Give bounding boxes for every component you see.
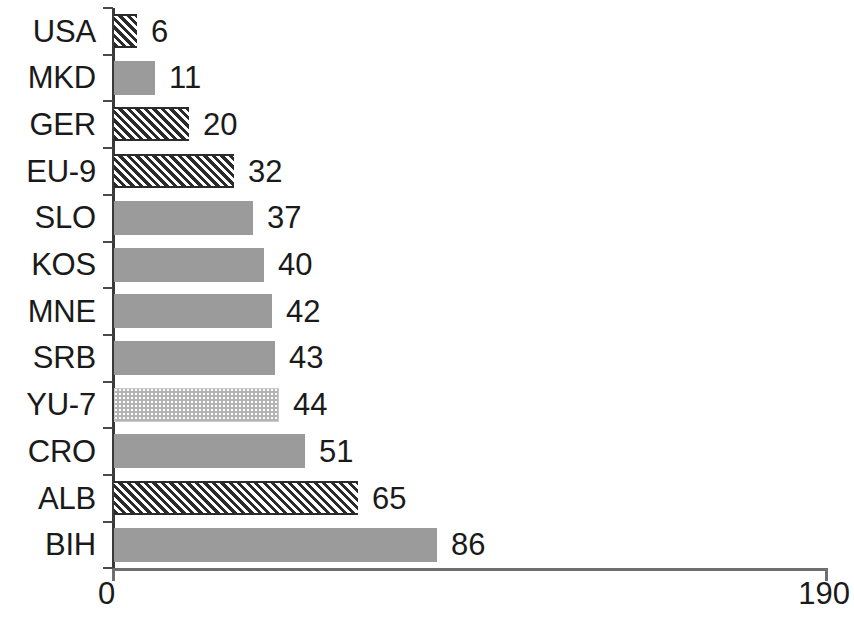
bar-fill <box>114 294 272 328</box>
bar-row: GER20 <box>0 101 854 147</box>
bar-row: KOS40 <box>0 242 854 288</box>
bar-value-label: 11 <box>169 55 201 101</box>
category-label: YU-7 <box>0 382 96 428</box>
category-label: GER <box>0 101 96 147</box>
bar-fill <box>114 434 305 468</box>
bar-fill <box>114 481 358 515</box>
category-label: BIH <box>0 522 96 568</box>
bar-value-label: 20 <box>203 101 237 147</box>
bar-yu-7 <box>114 388 279 422</box>
bar-value-label: 40 <box>278 242 312 288</box>
bar-fill <box>114 154 234 188</box>
category-label: MKD <box>0 55 96 101</box>
bar-fill <box>114 14 137 48</box>
bar-fill <box>114 201 253 235</box>
category-label: SRB <box>0 335 96 381</box>
bar-row: ALB65 <box>0 475 854 521</box>
category-label: EU-9 <box>0 148 96 194</box>
y-axis-tick <box>103 567 113 569</box>
x-axis-label-max: 190 <box>798 578 850 609</box>
bar-eu-9 <box>114 154 234 188</box>
bar-value-label: 43 <box>289 335 323 381</box>
bar-row: EU-932 <box>0 148 854 194</box>
bar-row: SRB43 <box>0 335 854 381</box>
bar-bih <box>114 528 437 562</box>
x-axis-tick-labels: 0 190 <box>0 578 854 619</box>
bar-fill <box>114 388 279 422</box>
bar-fill <box>114 61 155 95</box>
bar-fill <box>114 341 275 375</box>
bar-row: YU-744 <box>0 382 854 428</box>
bar-row: CRO51 <box>0 428 854 474</box>
bar-value-label: 65 <box>372 475 406 521</box>
bar-row: BIH86 <box>0 522 854 568</box>
bar-value-label: 37 <box>267 195 301 241</box>
bar-value-label: 86 <box>451 522 485 568</box>
bar-mkd <box>114 61 155 95</box>
bar-mne <box>114 294 272 328</box>
bar-srb <box>114 341 275 375</box>
bar-chart: USA6MKD11GER20EU-932SLO37KOS40MNE42SRB43… <box>0 0 854 619</box>
category-label: CRO <box>0 428 96 474</box>
bar-row: MNE42 <box>0 288 854 334</box>
bar-fill <box>114 528 437 562</box>
category-label: SLO <box>0 195 96 241</box>
bar-row: SLO37 <box>0 195 854 241</box>
bar-value-label: 44 <box>293 382 327 428</box>
bar-row: USA6 <box>0 8 854 54</box>
bar-value-label: 6 <box>151 8 168 54</box>
bar-ger <box>114 107 189 141</box>
plot-area: USA6MKD11GER20EU-932SLO37KOS40MNE42SRB43… <box>0 0 854 619</box>
bar-value-label: 32 <box>248 148 282 194</box>
bar-row: MKD11 <box>0 55 854 101</box>
category-label: MNE <box>0 288 96 334</box>
bar-kos <box>114 248 264 282</box>
x-axis-line <box>112 568 828 571</box>
bar-value-label: 42 <box>286 288 320 334</box>
category-label: ALB <box>0 475 96 521</box>
bar-cro <box>114 434 305 468</box>
bar-value-label: 51 <box>319 428 353 474</box>
bar-alb <box>114 481 358 515</box>
bar-fill <box>114 248 264 282</box>
bar-usa <box>114 14 137 48</box>
x-axis-label-min: 0 <box>98 578 115 609</box>
category-label: KOS <box>0 242 96 288</box>
category-label: USA <box>0 8 96 54</box>
bar-slo <box>114 201 253 235</box>
bar-fill <box>114 107 189 141</box>
